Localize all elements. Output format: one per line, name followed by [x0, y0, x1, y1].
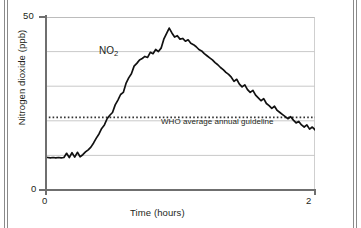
frame-rule-left-outer	[4, 0, 5, 228]
data-series-no2	[45, 28, 315, 158]
x-tick-2	[314, 189, 316, 195]
series-label-text: NO	[99, 45, 114, 56]
figure-container: WHO average annual guideline NO2 50 0 0 …	[0, 0, 361, 228]
x-axis-line	[43, 189, 316, 191]
frame-rule-left-inner	[7, 0, 8, 228]
x-tick-label-2: 2	[306, 196, 311, 206]
who-guideline-label: WHO average annual guideline	[161, 117, 274, 126]
y-tick-label-0: 0	[31, 184, 36, 194]
y-axis-title: Nitrogen dioxide (ppb)	[16, 13, 27, 143]
plot-wrapper: WHO average annual guideline NO2	[45, 17, 315, 190]
frame-rule-right-outer	[356, 0, 357, 228]
x-axis-title: Time (hours)	[130, 207, 185, 218]
chart-svg	[45, 17, 315, 190]
series-label-no2: NO2	[99, 45, 118, 56]
y-tick-50	[39, 16, 45, 18]
frame-rule-right-inner	[353, 0, 354, 228]
x-tick-label-0: 0	[42, 196, 47, 206]
series-label-subscript: 2	[114, 49, 118, 58]
y-axis-line	[45, 15, 47, 192]
